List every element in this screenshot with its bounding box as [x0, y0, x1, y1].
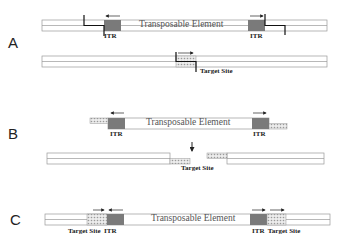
panel-label-c: C	[10, 211, 21, 228]
itr-left-box	[108, 118, 125, 129]
target-site-label-b: Target Site	[181, 164, 214, 172]
element-label-a: Transposable Element	[139, 19, 223, 29]
itr-left-label-a: ITR	[104, 32, 116, 40]
cut-line-left	[84, 15, 104, 36]
itr-right-box	[248, 20, 265, 31]
itr-right-box	[250, 214, 267, 225]
itr-left-box	[107, 214, 124, 225]
panel-label-a: A	[8, 34, 18, 51]
target-cut-line	[176, 52, 196, 72]
itr-left-box	[104, 20, 121, 31]
right-labels-c: ITR Target Site	[252, 227, 300, 235]
target-site-left-box	[87, 214, 107, 225]
element-label-c: Transposable Element	[151, 213, 235, 223]
itr-right-label-b: ITR	[253, 130, 265, 138]
overhang-right	[269, 124, 287, 130]
itr-right-box	[252, 118, 269, 129]
element-label-b: Transposable Element	[146, 117, 230, 127]
cut-target-dna-left	[47, 153, 190, 164]
target-site-right-box	[267, 214, 286, 225]
itr-right-label-a: ITR	[250, 32, 262, 40]
cut-target-dna-right	[207, 153, 324, 164]
target-site-label-a: Target Site	[200, 67, 233, 75]
panel-label-b: B	[8, 125, 18, 142]
overhang-left	[90, 118, 108, 124]
left-labels-c: Target Site ITR	[68, 227, 117, 235]
itr-left-label-b: ITR	[110, 130, 122, 138]
